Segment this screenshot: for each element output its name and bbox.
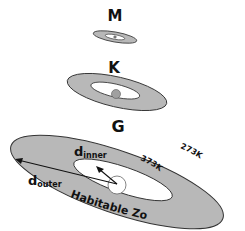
habitable-zone-diagram: M K G dinner douter 373K 273K [0,0,245,231]
g-star-label: G [111,117,124,136]
k-star-system: K [64,59,170,118]
k-star-icon [112,90,121,99]
outer-temp-label: 273K [179,142,204,161]
m-star-label: M [108,7,123,25]
m-star-system: M [92,7,137,46]
k-star-label: K [108,59,121,77]
